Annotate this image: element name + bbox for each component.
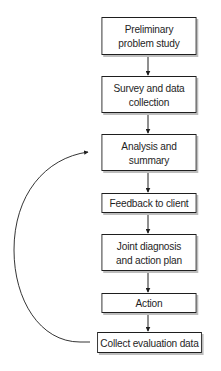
node-label: Joint diagnosis and action plan [116,239,182,267]
node-label: Collect evaluation data [100,336,198,350]
arrow-loop-n7-n3 [14,152,90,342]
node-action: Action [101,293,196,313]
node-joint-diagnosis-and-action-plan: Joint diagnosis and action plan [101,234,196,271]
node-survey-and-data-collection: Survey and data collection [101,76,196,113]
flowchart: Preliminary problem study Survey and dat… [0,0,221,371]
node-label: Feedback to client [110,196,189,210]
node-label: Analysis and summary [121,139,176,167]
node-preliminary-problem-study: Preliminary problem study [101,17,196,55]
node-feedback-to-client: Feedback to client [101,193,196,213]
node-label: Survey and data collection [113,81,184,109]
node-analysis-and-summary: Analysis and summary [101,134,196,171]
node-label: Action [135,296,162,310]
node-label: Preliminary problem study [118,22,179,50]
connector-layer [0,0,221,371]
node-collect-evaluation-data: Collect evaluation data [97,332,202,353]
